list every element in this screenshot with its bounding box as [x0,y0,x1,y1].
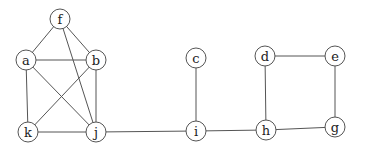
node-label: d [261,49,269,64]
edge-j-i [96,131,196,132]
node-label: h [262,123,271,138]
node-c: c [186,48,206,68]
node-label: k [24,125,32,140]
node-f: f [50,9,70,29]
node-a: a [16,50,36,70]
node-d: d [255,46,275,66]
node-label: a [22,53,30,68]
node-k: k [18,122,38,142]
edges-layer [26,19,335,132]
nodes-layer: fabkjcidehg [16,9,345,142]
node-j: j [86,122,106,142]
node-label: b [92,53,100,68]
node-i: i [186,121,206,141]
edge-d-h [265,56,266,130]
node-b: b [86,50,106,70]
edge-i-h [196,130,266,131]
node-label: c [192,51,199,66]
node-e: e [325,46,345,66]
graph-canvas: fabkjcidehg [0,0,365,152]
node-label: g [331,120,339,135]
node-label: e [331,49,339,64]
node-g: g [325,117,345,137]
edge-a-k [26,60,28,132]
edge-f-j [60,19,96,132]
node-label: i [194,124,198,139]
node-h: h [256,120,276,140]
